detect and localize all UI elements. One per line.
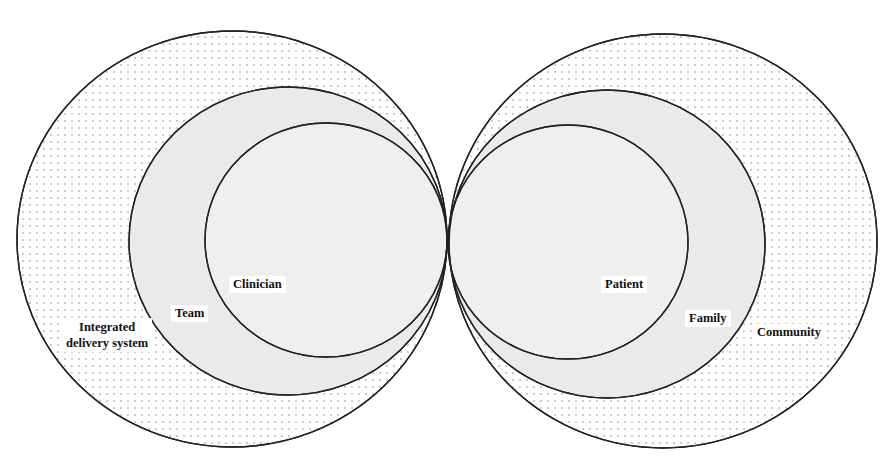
community-label: Community [753,324,825,341]
integrated-delivery-system-label-line1: Integrated [66,319,148,335]
clinician-label: Clinician [229,276,286,293]
right-circle-group [448,34,877,448]
family-label: Family [685,310,731,327]
patient-circle-texture [448,125,688,359]
integrated-delivery-system-label: Integrated delivery system [62,318,152,352]
clinician-circle-texture [205,123,447,357]
patient-label: Patient [601,276,647,293]
left-circle-group [17,31,447,447]
nested-circles-diagram [0,0,890,467]
team-label: Team [171,305,208,322]
integrated-delivery-system-label-line2: delivery system [66,335,148,351]
